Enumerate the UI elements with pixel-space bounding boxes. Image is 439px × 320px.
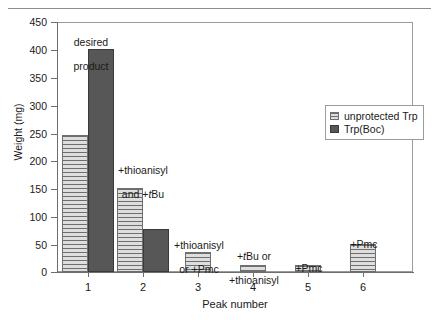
y-tick-label-450-wrap: 450 bbox=[19, 17, 49, 28]
y-tick-label-150-wrap: 150 bbox=[19, 184, 49, 195]
bar-peak1-unprotected-trp[interactable] bbox=[62, 135, 88, 272]
annotation-peak1-line2: product bbox=[58, 60, 124, 72]
y-tick-label-0: 0 bbox=[19, 267, 47, 278]
annotation-peak4: +tBu or +thioanisyl bbox=[216, 238, 292, 298]
y-tick-0 bbox=[51, 272, 57, 273]
y-tick-label-100: 100 bbox=[19, 212, 47, 223]
bar-chart-figure: 450 400 350 300 250 200 150 100 50 0 Wei… bbox=[0, 0, 439, 320]
y-tick-label-0-wrap: 0 bbox=[19, 267, 49, 278]
y-tick-label-50-wrap: 50 bbox=[19, 240, 49, 251]
y-tick-50 bbox=[51, 245, 57, 246]
y-tick-250 bbox=[51, 134, 57, 135]
annotation-peak1-line1: desired bbox=[58, 36, 124, 48]
y-tick-300 bbox=[51, 106, 57, 107]
annotation-peak4-line1: +tBu or bbox=[216, 250, 292, 262]
y-tick-400 bbox=[51, 50, 57, 51]
y-tick-200 bbox=[51, 161, 57, 162]
y-tick-350 bbox=[51, 78, 57, 79]
x-tick-6 bbox=[363, 272, 364, 277]
x-tick-label-6: 6 bbox=[343, 281, 383, 293]
y-tick-450 bbox=[51, 22, 57, 23]
y-tick-label-350: 350 bbox=[19, 73, 47, 84]
legend: unprotected Trp Trp(Boc) bbox=[325, 105, 424, 140]
legend-swatch-unprotected-trp-icon bbox=[330, 112, 339, 120]
legend-item-unprotected-trp[interactable]: unprotected Trp bbox=[330, 110, 418, 122]
x-tick-label-2: 2 bbox=[123, 281, 163, 293]
legend-item-trp-boc[interactable]: Trp(Boc) bbox=[330, 123, 418, 135]
annotation-peak2: +thioanisyl and +tBu bbox=[105, 152, 181, 212]
annotation-peak2-post: Bu bbox=[151, 188, 164, 200]
x-axis-title: Peak number bbox=[57, 298, 413, 310]
annotation-peak4-line2: +thioanisyl bbox=[216, 274, 292, 286]
top-divider-rule bbox=[8, 8, 431, 9]
y-axis-title: Weight (mg) bbox=[12, 87, 24, 177]
y-tick-label-400: 400 bbox=[19, 45, 47, 56]
annotation-peak5: +Pmc bbox=[283, 250, 335, 286]
y-tick-100 bbox=[51, 217, 57, 218]
y-tick-label-50: 50 bbox=[19, 240, 47, 251]
legend-label-unprotected-trp: unprotected Trp bbox=[344, 111, 418, 122]
annotation-peak6-line1: +Pmc bbox=[338, 238, 390, 250]
y-tick-label-350-wrap: 350 bbox=[19, 73, 49, 84]
x-tick-label-1: 1 bbox=[68, 281, 108, 293]
annotation-peak5-line1: +Pmc bbox=[283, 262, 335, 274]
x-tick-2 bbox=[143, 272, 144, 277]
annotation-peak2-line2: and +tBu bbox=[105, 188, 181, 200]
legend-label-trp-boc: Trp(Boc) bbox=[344, 124, 384, 135]
legend-swatch-trp-boc-icon bbox=[330, 125, 339, 133]
y-tick-150 bbox=[51, 189, 57, 190]
y-tick-label-150: 150 bbox=[19, 184, 47, 195]
annotation-peak4-post: Bu or bbox=[246, 250, 271, 262]
annotation-peak6: +Pmc bbox=[338, 226, 390, 262]
annotation-peak2-pre: and + bbox=[122, 188, 149, 200]
y-tick-label-100-wrap: 100 bbox=[19, 212, 49, 223]
y-tick-label-400-wrap: 400 bbox=[19, 45, 49, 56]
y-tick-label-450: 450 bbox=[19, 17, 47, 28]
x-tick-1 bbox=[88, 272, 89, 277]
annotation-peak1: desired product bbox=[58, 24, 124, 84]
annotation-peak2-line1: +thioanisyl bbox=[105, 164, 181, 176]
